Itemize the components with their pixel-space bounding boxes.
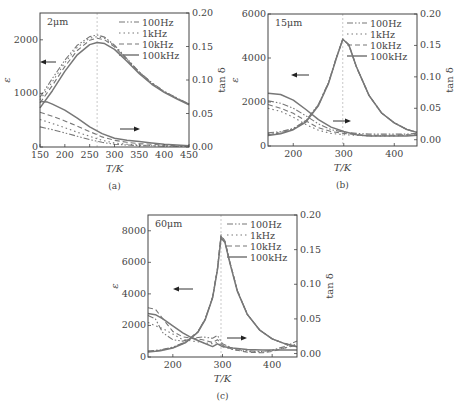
y-right-tick-label: 0.20 xyxy=(420,8,441,19)
y-right-tick-label: 0.20 xyxy=(300,209,321,220)
x-tick-label: 350 xyxy=(130,149,148,160)
x-tick-label: 400 xyxy=(385,148,403,159)
x-tick-label: 400 xyxy=(155,149,173,160)
arrow-right-icon xyxy=(345,119,351,124)
legend-label-10khz: 10kHz xyxy=(142,39,173,50)
legend-label-100khz: 100kHz xyxy=(370,51,407,62)
x-axis-label: T/K xyxy=(106,163,124,174)
legend-label-100hz: 100Hz xyxy=(142,17,173,28)
legend-label-10khz: 10kHz xyxy=(370,40,401,51)
chart-panel-c: 200300400020004000600080000.000.050.100.… xyxy=(109,209,335,401)
legend-label-100khz: 100kHz xyxy=(142,50,179,61)
x-tick-label: 300 xyxy=(105,149,123,160)
arrow-right-icon xyxy=(134,127,140,132)
y-right-tick-label: 0.10 xyxy=(420,71,441,82)
thickness-annotation: 2μm xyxy=(47,16,68,27)
y-right-tick-label: 0.10 xyxy=(192,74,213,85)
y-left-tick-label: 0 xyxy=(32,141,38,152)
y-right-tick-label: 0.15 xyxy=(420,39,441,50)
y-right-tick-label: 0.10 xyxy=(300,278,321,289)
y-left-axis-label: ε xyxy=(1,77,12,82)
arrow-right-icon xyxy=(241,336,247,341)
y-right-tick-label: 0.00 xyxy=(300,348,321,359)
legend-label-1khz: 1kHz xyxy=(370,29,395,40)
y-right-tick-label: 0.15 xyxy=(300,244,321,255)
y-right-tick-label: 0.05 xyxy=(300,313,321,324)
x-tick-label: 200 xyxy=(284,148,302,159)
y-left-tick-label: 2000 xyxy=(14,34,38,45)
arrow-left-icon xyxy=(291,73,297,78)
y-right-tick-label: 0.00 xyxy=(192,141,213,152)
legend-label-100hz: 100Hz xyxy=(250,219,281,230)
figure: 1502002503003504004500100020000.000.050.… xyxy=(0,0,456,405)
y-left-tick-label: 0 xyxy=(260,140,266,151)
x-axis-label: T/K xyxy=(214,373,232,384)
y-left-tick-label: 4000 xyxy=(122,288,146,299)
legend: 100Hz1kHz10kHz100kHz xyxy=(119,17,179,61)
panel-caption: (c) xyxy=(216,391,228,401)
y-left-tick-label: 6000 xyxy=(242,8,266,19)
legend-label-1khz: 1kHz xyxy=(142,28,167,39)
loss-tangent-curve-100hz xyxy=(40,127,189,146)
y-right-axis-label: tan δ xyxy=(324,273,335,299)
y-left-axis-label: ε xyxy=(109,283,120,288)
loss-tangent-curve-1khz xyxy=(40,120,189,147)
legend: 100Hz1kHz10kHz100kHz xyxy=(347,18,407,62)
y-right-tick-label: 0.05 xyxy=(192,108,213,119)
y-right-tick-label: 0.15 xyxy=(192,41,213,52)
y-left-tick-label: 8000 xyxy=(122,225,146,236)
panel-caption: (a) xyxy=(108,181,120,191)
y-left-tick-label: 6000 xyxy=(122,256,146,267)
loss-tangent-curve-10khz xyxy=(40,112,189,146)
y-left-tick-label: 0 xyxy=(140,351,146,362)
legend-label-10khz: 10kHz xyxy=(250,241,281,252)
arrow-left-icon xyxy=(40,60,46,65)
x-tick-label: 300 xyxy=(335,148,353,159)
y-right-axis-label: tan δ xyxy=(216,67,227,93)
thickness-annotation: 15μm xyxy=(275,17,302,28)
y-left-tick-label: 2000 xyxy=(242,96,266,107)
x-tick-label: 250 xyxy=(81,149,99,160)
chart-panel-b: 20030040002000400060000.000.050.100.150.… xyxy=(229,8,455,190)
y-right-tick-label: 0.05 xyxy=(420,102,441,113)
y-right-tick-label: 0.20 xyxy=(192,7,213,18)
x-tick-label: 300 xyxy=(213,359,231,370)
legend-label-100hz: 100Hz xyxy=(370,18,401,29)
loss-tangent-curve-100khz xyxy=(40,101,189,145)
y-left-tick-label: 2000 xyxy=(122,319,146,330)
x-tick-label: 200 xyxy=(56,149,74,160)
x-tick-label: 200 xyxy=(164,359,182,370)
thickness-annotation: 60μm xyxy=(155,218,182,229)
legend: 100Hz1kHz10kHz100kHz xyxy=(227,219,287,263)
chart-panel-a: 1502002503003504004500100020000.000.050.… xyxy=(1,7,227,191)
x-tick-label: 400 xyxy=(263,359,281,370)
y-left-tick-label: 4000 xyxy=(242,52,266,63)
legend-label-1khz: 1kHz xyxy=(250,230,275,241)
arrow-left-icon xyxy=(173,287,179,292)
y-right-axis-label: tan δ xyxy=(444,67,455,93)
y-left-tick-label: 1000 xyxy=(14,87,38,98)
legend-label-100khz: 100kHz xyxy=(250,252,287,263)
panel-caption: (b) xyxy=(336,180,349,190)
x-axis-label: T/K xyxy=(334,162,352,173)
y-right-tick-label: 0.00 xyxy=(420,134,441,145)
y-left-axis-label: ε xyxy=(229,77,240,82)
